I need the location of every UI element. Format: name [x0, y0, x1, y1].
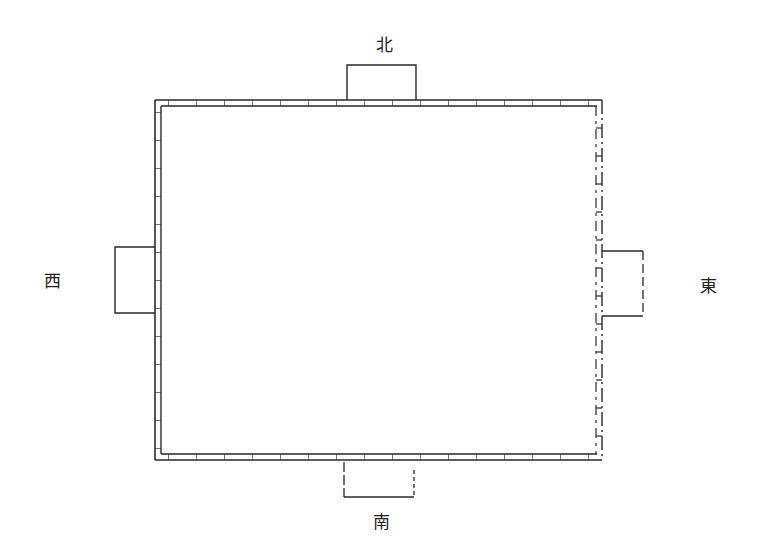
- west-wall: [155, 100, 161, 460]
- east-label: 東: [700, 278, 717, 295]
- south-label: 南: [373, 514, 390, 531]
- enclosure-diagram: 北 南 西 東: [0, 0, 758, 560]
- north-gate: [347, 65, 416, 100]
- north-wall: [155, 100, 602, 106]
- south-wall: [155, 454, 602, 460]
- east-wall: [596, 100, 602, 460]
- east-gate: [602, 251, 643, 316]
- south-gate: [344, 462, 414, 497]
- west-label: 西: [44, 273, 61, 290]
- north-label: 北: [376, 37, 393, 54]
- west-gate: [115, 247, 155, 313]
